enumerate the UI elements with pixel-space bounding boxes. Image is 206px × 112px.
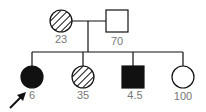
- child-3-label: 4.5: [127, 89, 142, 101]
- child-4-label: 100: [174, 90, 192, 102]
- pedigree-diagram: 23 70 6 35 4.5 100: [0, 0, 206, 112]
- father-label: 70: [111, 35, 123, 47]
- child-3-symbol: [122, 66, 144, 88]
- child-4-symbol: [172, 66, 194, 88]
- mother-label: 23: [55, 33, 67, 45]
- child-2-symbol: [72, 66, 94, 88]
- proband-arrow-icon: [10, 92, 26, 108]
- child-2-label: 35: [77, 89, 89, 101]
- child-1-symbol: [21, 66, 43, 88]
- mother-symbol: [50, 10, 72, 32]
- child-1-label: 6: [29, 89, 35, 101]
- father-symbol: [106, 10, 128, 32]
